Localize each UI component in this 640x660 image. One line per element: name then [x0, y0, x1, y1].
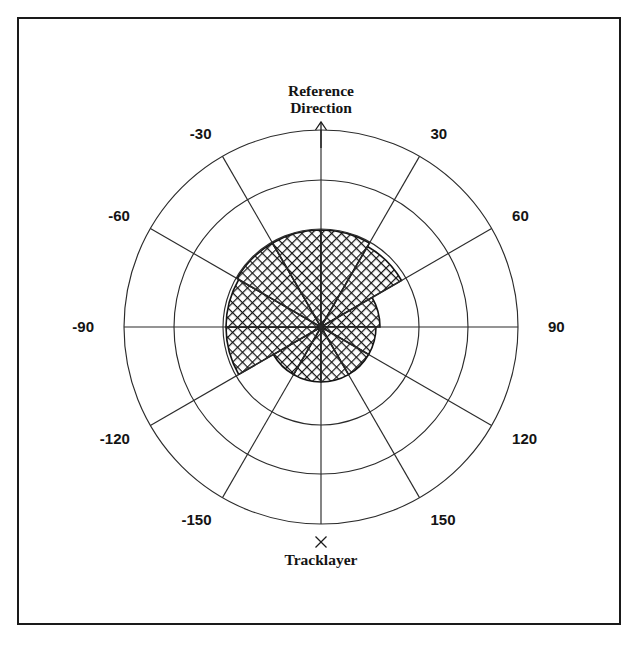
angle-tick-label: 30 [431, 125, 448, 142]
data-sectors-group [226, 230, 402, 382]
angle-tick-label: -150 [181, 511, 211, 528]
angle-tick-label: 150 [431, 511, 456, 528]
tracklayer-label: Tracklayer [285, 551, 358, 568]
angle-tick-label: 120 [512, 430, 537, 447]
polar-spokes-group [124, 130, 518, 524]
angle-tick-label: -90 [72, 318, 94, 335]
angle-tick-label: -30 [190, 125, 212, 142]
polar-plot: ReferenceDirectionTracklayer -150-120-90… [0, 0, 640, 660]
angle-tick-label: 90 [548, 318, 565, 335]
angle-tick-label: 60 [512, 207, 529, 224]
angle-tick-label: -60 [108, 207, 130, 224]
reference-direction-label-line1: Reference [288, 82, 354, 99]
page-root: ReferenceDirectionTracklayer -150-120-90… [0, 0, 640, 660]
angle-tick-label: -120 [100, 430, 130, 447]
reference-direction-label-line2: Direction [290, 99, 352, 116]
